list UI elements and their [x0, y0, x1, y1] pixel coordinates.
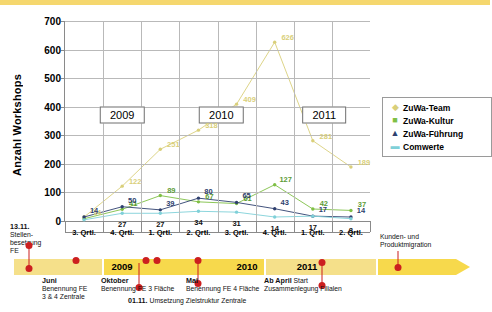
y-axis-title: Anzahl Workshops — [8, 65, 26, 185]
data-label-ZuWa-Team-2: 251 — [167, 140, 180, 149]
x-divider — [141, 221, 142, 232]
x-tick-label: 2. Qrtl. — [187, 228, 211, 237]
y-tick-mark — [61, 78, 65, 79]
y-tick-label: 600 — [44, 44, 61, 55]
y-tick-mark — [61, 192, 65, 193]
x-divider — [370, 221, 371, 232]
data-label-ZuWa-Team-7: 189 — [358, 158, 371, 167]
point-ZuWa-Team-5 — [273, 40, 276, 43]
gridline-v — [179, 21, 180, 221]
y-tick-label: 0 — [55, 216, 61, 227]
data-label-ZuWa-Team-4: 409 — [243, 95, 256, 104]
data-label-Comwerte-2: 27 — [156, 220, 164, 229]
milestone-0-pin — [26, 242, 33, 249]
data-label-ZuWa-Führung-0: 14 — [90, 206, 98, 215]
x-divider — [65, 221, 66, 232]
x-tick-label: 3. Qrtl. — [72, 228, 96, 237]
y-tick-label: 400 — [44, 101, 61, 112]
data-label-ZuWa-Führung-2: 39 — [166, 198, 174, 207]
legend-item-ZuWa-Kultur[interactable]: ■ZuWa-Kultur — [387, 114, 487, 127]
data-label-ZuWa-Kultur-2: 89 — [167, 185, 175, 194]
milestone-3-pin — [154, 257, 161, 264]
point-ZuWa-Kultur-5 — [273, 183, 276, 186]
milestone-6-pin — [395, 264, 402, 271]
data-label-ZuWa-Führung-7: 14 — [357, 206, 365, 215]
gridline-v — [294, 21, 295, 221]
legend-label: Comwerte — [403, 142, 444, 152]
legend-marker-icon: ▲ — [387, 129, 403, 138]
legend-marker-icon: ▬ — [387, 142, 403, 151]
point-Comwerte-7 — [349, 217, 352, 220]
data-label-ZuWa-Führung-1: 50 — [128, 195, 136, 204]
point-ZuWa-Team-2 — [159, 148, 162, 151]
timeline-arrow-head — [456, 259, 470, 275]
x-tick-label: 4. Qrtl. — [110, 228, 134, 237]
point-Comwerte-5 — [273, 215, 276, 218]
y-tick-mark — [61, 107, 65, 108]
data-label-ZuWa-Team-3: 318 — [205, 121, 218, 130]
legend-marker-icon: ◆ — [387, 103, 403, 112]
x-divider — [256, 221, 257, 232]
legend-label: ZuWa-Führung — [403, 129, 463, 139]
point-ZuWa-Kultur-6 — [311, 207, 314, 210]
milestone-2-label: Oktober Benennung FE 3 Fläche — [101, 277, 174, 293]
point-ZuWa-Team-3 — [197, 128, 200, 131]
point-ZuWa-Führung-1 — [120, 205, 123, 208]
data-label-Comwerte-6: 17 — [309, 223, 317, 232]
y-tick-mark — [61, 164, 65, 165]
legend-label: ZuWa-Kultur — [403, 116, 454, 126]
milestone-0-label: 13.11. Stellen- besetzung FE — [10, 223, 41, 255]
data-label-Comwerte-5: 14 — [271, 224, 279, 233]
y-tick-mark — [61, 135, 65, 136]
milestone-0-pin-end — [26, 265, 33, 272]
point-Comwerte-4 — [235, 210, 238, 213]
x-tick-label: 1. Qrtl. — [148, 228, 172, 237]
point-Comwerte-0 — [82, 218, 85, 221]
x-divider — [103, 221, 104, 232]
milestone-2-pin — [143, 257, 150, 264]
legend-label: ZuWa-Team — [403, 103, 450, 113]
point-ZuWa-Team-7 — [349, 165, 352, 168]
point-ZuWa-Kultur-3 — [197, 200, 200, 203]
milestone-4-label: Mai Benennung FE 4 Fläche — [186, 277, 259, 293]
y-tick-label: 500 — [44, 73, 61, 84]
milestone-1-pin — [73, 257, 80, 264]
point-Comwerte-6 — [311, 214, 314, 217]
timeline-container: 2009 2010 2011 13.11. Stellen- besetzung… — [0, 237, 490, 312]
data-label-ZuWa-Team-6: 281 — [320, 131, 333, 140]
data-label-Comwerte-1: 27 — [118, 220, 126, 229]
y-tick-mark — [61, 21, 65, 22]
chart-container: Anzahl Workshops 01002003004005006007003… — [0, 5, 490, 237]
x-divider — [179, 221, 180, 232]
gridline-v — [256, 21, 257, 221]
point-ZuWa-Kultur-7 — [349, 209, 352, 212]
legend-item-Comwerte[interactable]: ▬Comwerte — [387, 140, 487, 153]
legend-item-ZuWa-Team[interactable]: ◆ZuWa-Team — [387, 101, 487, 114]
point-Comwerte-1 — [120, 212, 123, 215]
x-divider — [218, 221, 219, 232]
data-label-Comwerte-3: 34 — [194, 218, 202, 227]
x-divider — [294, 221, 295, 232]
point-Comwerte-3 — [197, 210, 200, 213]
milestone-5-label: Ab April Start Zusammenlegung Filialen — [264, 277, 342, 293]
x-tick-label: 3. Qrtl. — [225, 228, 249, 237]
x-divider — [332, 221, 333, 232]
data-label-ZuWa-Führung-6: 17 — [319, 205, 327, 214]
milestone-1-label: Juni Benennung FE 3 & 4 Zentrale — [42, 277, 87, 301]
data-label-ZuWa-Team-1: 122 — [129, 177, 142, 186]
point-ZuWa-Führung-2 — [159, 208, 162, 211]
timeline-year-2011: 2011 — [297, 261, 318, 272]
y-tick-mark — [61, 50, 65, 51]
y-tick-label: 700 — [44, 16, 61, 27]
data-label-ZuWa-Führung-4: 65 — [242, 191, 250, 200]
point-ZuWa-Führung-4 — [235, 201, 238, 204]
legend-marker-icon: ■ — [387, 116, 403, 125]
legend-item-ZuWa-Führung[interactable]: ▲ZuWa-Führung — [387, 127, 487, 140]
point-ZuWa-Führung-5 — [273, 207, 276, 210]
data-label-ZuWa-Kultur-5: 127 — [279, 174, 292, 183]
data-label-ZuWa-Team-5: 626 — [281, 33, 294, 42]
point-Comwerte-2 — [159, 212, 162, 215]
y-tick-label: 100 — [44, 187, 61, 198]
y-tick-label: 200 — [44, 158, 61, 169]
chart-legend: ◆ZuWa-Team■ZuWa-Kultur▲ZuWa-Führung▬Comw… — [382, 97, 492, 157]
